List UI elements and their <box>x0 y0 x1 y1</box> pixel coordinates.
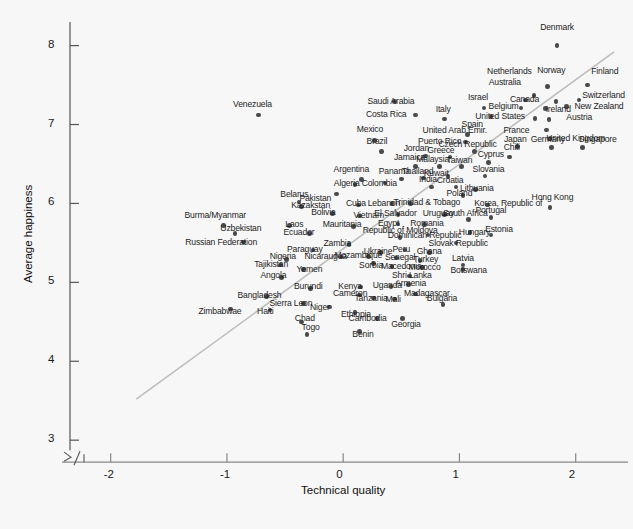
point-label: Argentina <box>334 165 369 174</box>
point-label: Haiti <box>257 307 273 316</box>
point-label: Austria <box>566 113 592 122</box>
point-label: Jamaica <box>394 153 425 162</box>
x-tick-label: -1 <box>220 468 230 480</box>
point-label: Trinidad & Tobago <box>394 198 461 207</box>
point-label: Belarus <box>280 190 308 199</box>
point-label: Sierra Leon <box>269 299 312 308</box>
x-tick-label: 1 <box>452 468 458 480</box>
point-label: Israel <box>468 93 488 102</box>
point-label: Sorbia <box>359 261 383 270</box>
point-label: Bolivia <box>311 208 335 217</box>
point-label: Niger <box>310 303 330 312</box>
data-point[interactable] <box>399 177 404 182</box>
y-tick-label: 7 <box>48 117 54 129</box>
point-label: United Arab Emir. <box>423 126 487 135</box>
point-label: Italy <box>436 105 451 114</box>
point-label: Belgium <box>489 102 519 111</box>
point-label: Australia <box>489 78 521 87</box>
data-point[interactable] <box>545 84 550 89</box>
data-point[interactable] <box>472 149 477 154</box>
point-label: Zimbabwae <box>198 307 241 316</box>
data-point[interactable] <box>533 116 538 121</box>
data-point[interactable] <box>580 145 585 150</box>
point-label: Poland <box>447 189 473 198</box>
point-label: Venezuela <box>233 100 272 109</box>
x-tick-label: 0 <box>336 468 342 480</box>
point-label: Mauritania <box>323 220 362 229</box>
point-label: Uzbekistan <box>220 224 261 233</box>
point-label: Mali <box>386 295 401 304</box>
point-label: Cuba <box>346 199 366 208</box>
point-label: Netherlands <box>487 67 532 76</box>
x-tick-label: -2 <box>104 468 114 480</box>
scatter-chart: DenmarkFinlandNorwayNetherlandsAustralia… <box>0 0 633 529</box>
data-point[interactable] <box>256 113 261 118</box>
point-label: Angola <box>261 271 287 280</box>
y-tick-label: 5 <box>48 274 54 286</box>
data-point[interactable] <box>549 145 554 150</box>
point-label: India <box>419 175 437 184</box>
point-label: Bulgaria <box>427 294 457 303</box>
point-label: Norway <box>537 66 565 75</box>
point-label: Mexico <box>357 125 383 134</box>
data-point[interactable] <box>334 192 339 197</box>
point-label: Tanzania <box>354 294 387 303</box>
data-point[interactable] <box>442 117 447 122</box>
point-label: Chad <box>295 314 315 323</box>
data-point[interactable] <box>413 113 418 118</box>
point-label: New Zealand <box>574 102 623 111</box>
point-label: Cyprus <box>478 150 504 159</box>
point-label: Uganda <box>373 281 402 290</box>
point-label: Saudi Arabia <box>367 97 414 106</box>
data-point[interactable] <box>379 149 384 154</box>
point-label: Brazil <box>367 137 388 146</box>
point-label: Zambia <box>323 239 351 248</box>
point-label: Russian Federation <box>185 238 257 247</box>
y-tick-label: 3 <box>48 432 54 444</box>
point-label: Chili <box>504 143 520 152</box>
point-label: Denmark <box>540 23 574 32</box>
point-label: Germany <box>531 135 565 144</box>
data-point[interactable] <box>429 185 434 190</box>
point-label: Lebanon <box>368 199 400 208</box>
y-tick-label: 4 <box>48 353 54 365</box>
point-label: Latvia <box>452 254 474 263</box>
point-label: Tajikistan <box>254 260 288 269</box>
point-label: Yemen <box>297 265 323 274</box>
data-point[interactable] <box>585 83 590 88</box>
point-label: Singapore <box>579 135 617 144</box>
data-point[interactable] <box>507 155 512 160</box>
point-label: Cambodia <box>349 314 387 323</box>
point-label: Burundi <box>294 282 323 291</box>
point-label: Hungary <box>459 228 490 237</box>
point-label: Switzerland <box>582 91 625 100</box>
y-tick-label: 6 <box>48 195 54 207</box>
point-label: Ecuador <box>284 228 315 237</box>
point-label: Panama <box>379 167 410 176</box>
point-label: Costa Rica <box>366 110 407 119</box>
point-label: Colombia <box>362 179 397 188</box>
data-point[interactable] <box>489 215 494 220</box>
point-label: Georgia <box>391 320 421 329</box>
point-label: Burma/Myanmar <box>185 211 247 220</box>
point-label: Finland <box>591 67 618 76</box>
point-label: Botswana <box>450 266 487 275</box>
data-point[interactable] <box>548 205 553 210</box>
x-axis-title: Technical quality <box>301 484 385 496</box>
point-label: Portugal <box>475 206 506 215</box>
point-label: Hong Kong <box>532 193 574 202</box>
y-tick-label: 8 <box>48 38 54 50</box>
point-label: Togo <box>302 323 320 332</box>
point-label: Benin <box>352 330 373 339</box>
point-label: Greece <box>427 146 454 155</box>
y-axis-title: Average happiness <box>22 185 34 283</box>
point-label: Slovania <box>473 165 505 174</box>
point-label: Nicaraugua <box>305 252 347 261</box>
x-tick-label: 2 <box>569 468 575 480</box>
point-label: Taiwan <box>447 156 473 165</box>
point-label: Jordan <box>404 144 429 153</box>
point-label: Algeria <box>334 179 360 188</box>
